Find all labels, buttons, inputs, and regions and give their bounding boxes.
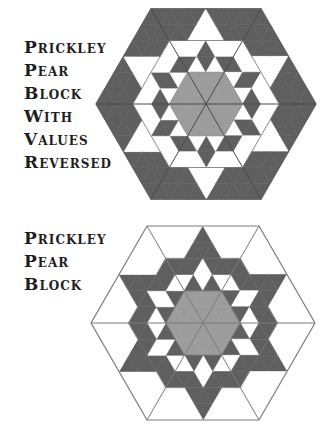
hexagon-block-reversed <box>96 9 316 200</box>
hexagon-block-normal <box>91 226 315 420</box>
quilt-block-diagrams <box>0 0 334 429</box>
